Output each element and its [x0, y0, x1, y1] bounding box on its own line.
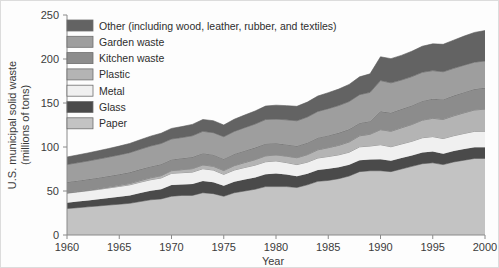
x-axis-title: Year: [262, 255, 285, 267]
legend-swatch: [67, 36, 93, 47]
legend-label: Glass: [99, 101, 126, 113]
x-tick-label: 1965: [107, 241, 131, 253]
legend-swatch: [67, 20, 93, 31]
x-tick-label: 1995: [421, 241, 445, 253]
legend-label: Paper: [99, 117, 128, 129]
y-tick-label: 50: [47, 185, 59, 197]
y-tick-label: 200: [41, 53, 59, 65]
x-tick-label: 1985: [316, 241, 340, 253]
y-axis-title-line2: (millions of tons): [19, 85, 31, 165]
y-tick-label: 0: [53, 229, 59, 241]
legend-swatch: [67, 69, 93, 80]
x-tick-label: 2000: [473, 241, 497, 253]
legend-swatch: [67, 118, 93, 129]
y-tick-label: 150: [41, 97, 59, 109]
chart-figure: 050100150200250 196019651970197519801985…: [0, 0, 499, 268]
x-tick-label: 1980: [264, 241, 288, 253]
legend-swatch: [67, 53, 93, 64]
legend-swatch: [67, 102, 93, 113]
y-tick-label: 250: [41, 9, 59, 21]
x-tick-label: 1960: [55, 241, 79, 253]
x-tick-label: 1970: [159, 241, 183, 253]
stacked-area-chart: 050100150200250 196019651970197519801985…: [1, 1, 499, 268]
y-axis-title: U.S. municipal solid waste: [6, 61, 18, 189]
legend-label: Garden waste: [99, 36, 165, 48]
x-tick-label: 1975: [212, 241, 236, 253]
x-axis-ticklabels: 196019651970197519801985199019952000: [55, 241, 497, 253]
legend-label: Kitchen waste: [99, 52, 165, 64]
y-tick-label: 100: [41, 141, 59, 153]
legend-label: Other (including wood, leather, rubber, …: [99, 20, 337, 32]
legend-swatch: [67, 85, 93, 96]
x-tick-label: 1990: [368, 241, 392, 253]
legend-label: Plastic: [99, 68, 130, 80]
legend-label: Metal: [99, 85, 125, 97]
